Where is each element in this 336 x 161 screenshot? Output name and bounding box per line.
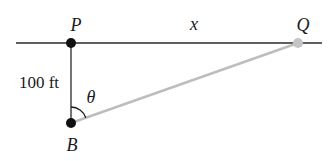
label-x: x xyxy=(189,14,198,34)
angle-arc xyxy=(71,107,86,118)
point-p xyxy=(66,38,76,48)
label-p: P xyxy=(70,15,82,35)
geometry-diagram: P x Q 100 ft θ B xyxy=(0,0,336,161)
label-b: B xyxy=(67,135,78,155)
label-100ft: 100 ft xyxy=(19,73,59,92)
segment-bq xyxy=(71,43,298,123)
point-q xyxy=(293,38,303,48)
label-q: Q xyxy=(297,15,310,35)
point-b xyxy=(66,118,76,128)
label-theta: θ xyxy=(87,87,96,107)
